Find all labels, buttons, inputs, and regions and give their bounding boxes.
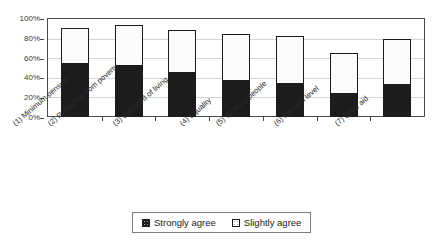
bar-segment-slightly-agree[interactable] bbox=[169, 31, 195, 72]
y-tick-mark bbox=[40, 118, 44, 119]
bar-stack[interactable] bbox=[168, 30, 196, 117]
bar-slot bbox=[370, 19, 424, 117]
bar-segment-slightly-agree[interactable] bbox=[331, 54, 357, 92]
bar-segment-slightly-agree[interactable] bbox=[277, 37, 303, 83]
y-tick-label: 80% bbox=[24, 35, 40, 43]
slightly-agree-swatch-icon bbox=[232, 219, 240, 227]
legend-label-strongly-agree: Strongly agree bbox=[154, 217, 216, 228]
chart-container: 100% 80% 60% 40% 20% 0% bbox=[0, 0, 435, 249]
y-tick-label: 60% bbox=[24, 55, 40, 63]
strongly-agree-swatch-icon bbox=[142, 219, 150, 227]
y-tick-mark bbox=[40, 78, 44, 79]
x-axis-labels: (1) Minimum pension (2) Protection from … bbox=[0, 121, 435, 196]
bar-segment-slightly-agree[interactable] bbox=[116, 26, 142, 65]
bar-segment-slightly-agree[interactable] bbox=[384, 40, 410, 84]
bar-segment-strongly-agree[interactable] bbox=[384, 84, 410, 117]
bar-segment-slightly-agree[interactable] bbox=[62, 29, 88, 63]
bar-slot bbox=[263, 19, 317, 117]
chart-legend: Strongly agree Slightly agree bbox=[132, 212, 311, 233]
bar-stack[interactable] bbox=[383, 39, 411, 117]
y-tick-mark bbox=[40, 59, 44, 60]
y-tick-label: 40% bbox=[24, 74, 40, 82]
y-tick-mark bbox=[40, 19, 44, 20]
y-tick-mark bbox=[40, 39, 44, 40]
y-tick-label: 100% bbox=[20, 15, 40, 23]
legend-item-slightly-agree[interactable]: Slightly agree bbox=[232, 217, 302, 228]
bar-segment-slightly-agree[interactable] bbox=[223, 35, 249, 80]
legend-label-slightly-agree: Slightly agree bbox=[244, 217, 302, 228]
legend-item-strongly-agree[interactable]: Strongly agree bbox=[142, 217, 216, 228]
